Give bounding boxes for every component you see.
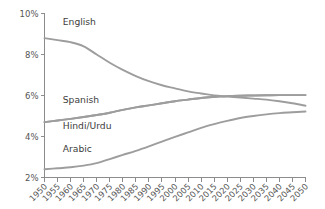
- y-tick-label: 10%: [20, 9, 39, 19]
- series-label-spanish: Spanish: [63, 94, 99, 105]
- series-label-arabic: Arabic: [63, 143, 92, 154]
- series-label-hindi-urdu: Hindi/Urdu: [63, 120, 112, 131]
- x-axis-tick-labels: 1950195519601965197019751980198519901995…: [27, 181, 310, 203]
- series-inline-labels: EnglishSpanishHindi/UrduArabic: [63, 16, 112, 154]
- language-share-line-chart: 10%8%6%4%2% 1950195519601965197019751980…: [0, 0, 325, 209]
- chart-canvas: 10%8%6%4%2% 1950195519601965197019751980…: [0, 0, 325, 209]
- y-tick-label: 4%: [25, 132, 39, 142]
- y-axis-tick-labels: 10%8%6%4%2%: [20, 9, 39, 183]
- x-axis-ticks: [45, 178, 306, 182]
- y-tick-label: 6%: [25, 91, 39, 101]
- y-tick-label: 2%: [25, 173, 39, 183]
- series-label-english: English: [63, 16, 96, 27]
- y-tick-label: 8%: [25, 50, 39, 60]
